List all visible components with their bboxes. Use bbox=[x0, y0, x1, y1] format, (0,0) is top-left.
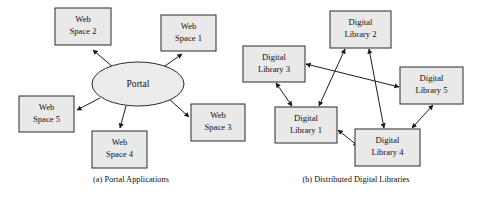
web-space-5-label-line1: Web bbox=[39, 102, 55, 112]
edge-portal-to-web-space-2 bbox=[93, 50, 114, 68]
network-diagram: Portal Web Space 2 Web Space 1 Web Space… bbox=[0, 0, 483, 199]
web-space-5-label-line2: Space 5 bbox=[33, 114, 60, 124]
panel-distributed-digital-libraries: Digital Library 2 Digital Library 3 Digi… bbox=[243, 11, 463, 184]
node-web-space-1[interactable]: Web Space 1 bbox=[161, 15, 216, 51]
edge-dl4-dl5 bbox=[412, 105, 433, 128]
digital-library-5-label-line1: Digital bbox=[420, 73, 444, 83]
web-space-1-label-line2: Space 1 bbox=[175, 33, 202, 43]
figure-canvas: Portal Web Space 2 Web Space 1 Web Space… bbox=[0, 0, 483, 199]
digital-library-3-label-line1: Digital bbox=[262, 52, 286, 62]
node-web-space-4[interactable]: Web Space 4 bbox=[92, 131, 147, 168]
web-space-2-label-line2: Space 2 bbox=[70, 26, 97, 36]
edge-portal-to-web-space-4 bbox=[120, 106, 126, 128]
edge-portal-to-web-space-3 bbox=[169, 99, 189, 117]
node-digital-library-2[interactable]: Digital Library 2 bbox=[330, 11, 391, 48]
digital-library-2-label-line1: Digital bbox=[349, 17, 373, 27]
web-space-3-label-line1: Web bbox=[210, 110, 226, 120]
web-space-1-label-line1: Web bbox=[181, 21, 197, 31]
web-space-4-label-line1: Web bbox=[112, 137, 128, 147]
digital-library-4-label-line1: Digital bbox=[376, 135, 400, 145]
edge-dl2-dl4 bbox=[369, 49, 384, 128]
edge-dl3-dl5 bbox=[306, 64, 399, 87]
node-digital-library-4[interactable]: Digital Library 4 bbox=[355, 129, 420, 166]
web-space-2-label-line1: Web bbox=[75, 14, 91, 24]
node-web-space-5[interactable]: Web Space 5 bbox=[19, 96, 74, 132]
digital-library-1-label-line1: Digital bbox=[294, 113, 318, 123]
digital-library-1-label-line2: Library 1 bbox=[290, 125, 322, 135]
web-space-3-label-line2: Space 3 bbox=[205, 122, 232, 132]
node-digital-library-5[interactable]: Digital Library 5 bbox=[400, 67, 463, 104]
digital-library-3-label-line2: Library 3 bbox=[258, 64, 290, 74]
digital-library-2-label-line2: Library 2 bbox=[344, 29, 376, 39]
portal-label: Portal bbox=[127, 78, 150, 89]
edge-portal-to-web-space-5 bbox=[77, 98, 100, 110]
node-web-space-3[interactable]: Web Space 3 bbox=[191, 104, 245, 141]
edge-dl1-dl2 bbox=[319, 49, 345, 106]
panel-portal-applications: Portal Web Space 2 Web Space 1 Web Space… bbox=[19, 8, 245, 184]
node-web-space-2[interactable]: Web Space 2 bbox=[55, 8, 111, 45]
digital-library-4-label-line2: Library 4 bbox=[371, 147, 404, 157]
panel-b-caption: (b) Distributed Digital Libraries bbox=[302, 175, 409, 184]
node-digital-library-1[interactable]: Digital Library 1 bbox=[275, 107, 337, 143]
web-space-4-label-line2: Space 4 bbox=[106, 149, 134, 159]
edge-dl3-dl1 bbox=[276, 83, 292, 106]
panel-a-caption: (a) Portal Applications bbox=[93, 175, 169, 184]
digital-library-5-label-line2: Library 5 bbox=[415, 85, 447, 95]
node-digital-library-3[interactable]: Digital Library 3 bbox=[243, 46, 305, 82]
node-portal[interactable]: Portal bbox=[92, 62, 184, 106]
